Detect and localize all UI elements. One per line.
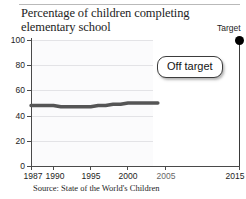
page-title: Percentage of children completing elemen… (21, 7, 221, 34)
x-tick-1995 (90, 166, 91, 170)
x-tick-1987 (31, 166, 32, 170)
chart-title-line-2: elementary school (21, 21, 221, 35)
y-axis-label-0: 0 (20, 161, 25, 171)
chart-title-line-1: Percentage of children completing (21, 7, 221, 21)
target-annotation-label: Target (217, 23, 241, 33)
x-axis-label-1995: 1995 (82, 171, 101, 181)
chart-figure: Percentage of children completing elemen… (0, 0, 246, 199)
y-axis-label-60: 60 (16, 85, 25, 95)
x-tick-2005 (165, 166, 166, 170)
x-axis-label-2015: 2015 (226, 171, 245, 181)
x-axis-label-2000: 2000 (119, 171, 138, 181)
status-badge: Off target (157, 56, 223, 78)
x-tick-2015 (239, 166, 240, 170)
x-axis-label-1990: 1990 (46, 171, 65, 181)
x-tick-1990 (53, 166, 54, 170)
y-axis-label-40: 40 (16, 111, 25, 121)
y-axis-label-80: 80 (16, 60, 25, 70)
target-point-marker (235, 36, 244, 45)
plot-area: 100 80 60 40 20 0 1987 1990 1995 2000 20… (31, 40, 240, 166)
header-divider (19, 4, 240, 5)
y-axis-label-20: 20 (16, 136, 25, 146)
series-polyline (31, 103, 158, 107)
x-axis-line (31, 166, 240, 167)
source-note: Source: State of the World's Children (33, 183, 160, 193)
x-axis-label-2005: 2005 (157, 171, 176, 181)
y-axis-label-100: 100 (11, 35, 25, 45)
x-axis-label-1987: 1987 (24, 171, 43, 181)
x-tick-2000 (127, 166, 128, 170)
